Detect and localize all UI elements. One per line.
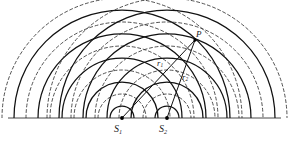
wavefront-arc-s2-trough-48	[119, 70, 215, 118]
wavefront-arc-s2-crest-108	[59, 10, 275, 118]
ray-r2-label: r2	[182, 73, 188, 83]
source-dot-s1	[120, 116, 124, 120]
ray-r1-label: r1	[157, 59, 163, 69]
interference-figure: S1 S2 P r1 r2	[0, 0, 289, 141]
wavefront-arc-s2-crest-60	[107, 58, 227, 118]
source-1-label: S1	[114, 124, 122, 135]
label-r2-subscript: 2	[185, 76, 188, 82]
wavefront-arc-s1-trough-48	[74, 70, 170, 118]
wavefront-canvas	[0, 0, 289, 141]
source-dot-s2	[165, 116, 169, 120]
label-s2-subscript: 2	[164, 128, 167, 135]
label-r1-subscript: 1	[160, 62, 163, 68]
point-p-label: P	[196, 30, 202, 39]
label-s1-subscript: 1	[119, 128, 122, 135]
source-2-label: S2	[159, 124, 167, 135]
wavefront-arc-s1-crest-60	[62, 58, 182, 118]
